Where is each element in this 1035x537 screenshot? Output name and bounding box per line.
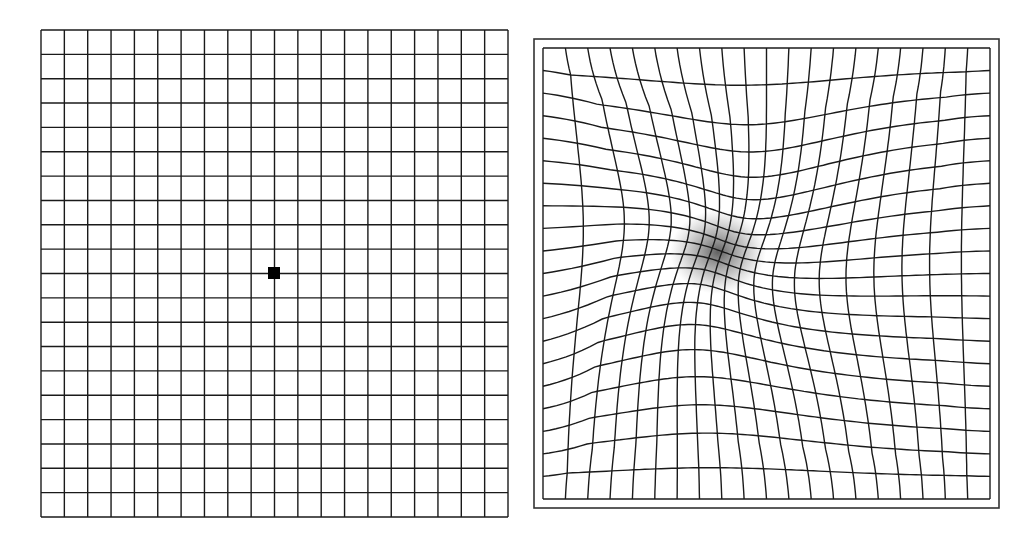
fixation-dot xyxy=(268,267,280,279)
distorted-amsler-grid xyxy=(543,48,990,499)
amsler-figure xyxy=(0,0,1035,537)
